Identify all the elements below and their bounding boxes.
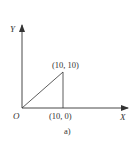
caption: a) xyxy=(64,126,71,136)
y-axis-label: Y xyxy=(10,24,16,34)
point-label-10-0: (10, 0) xyxy=(49,111,72,121)
coordinate-diagram: Y X O (10, 10) (10, 0) a) xyxy=(0,0,135,146)
diagonal-line xyxy=(22,72,63,108)
origin-label: O xyxy=(13,111,20,121)
point-label-10-10: (10, 10) xyxy=(52,60,79,70)
x-axis-label: X xyxy=(119,112,126,122)
